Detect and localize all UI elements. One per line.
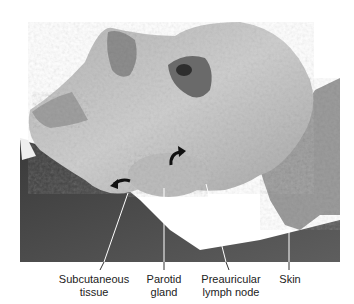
eye bbox=[176, 64, 192, 76]
label-subcutaneous-tissue: Subcutaneous tissue bbox=[58, 273, 130, 299]
label-line: Parotid bbox=[144, 273, 184, 286]
label-line: Preauricular bbox=[198, 273, 264, 286]
label-parotid-gland: Parotid gland bbox=[144, 273, 184, 299]
anatomy-photo bbox=[0, 0, 354, 304]
leader-subcutaneous-tail bbox=[100, 262, 104, 270]
label-line: Skin bbox=[276, 273, 304, 286]
parotid-gland-region bbox=[128, 153, 208, 197]
label-line: gland bbox=[144, 286, 184, 299]
label-preauricular-lymph-node: Preauricular lymph node bbox=[198, 273, 264, 299]
leader-preauricular-tail bbox=[226, 262, 229, 270]
label-line: lymph node bbox=[198, 286, 264, 299]
label-skin: Skin bbox=[276, 273, 304, 286]
label-line: tissue bbox=[58, 286, 130, 299]
label-line: Subcutaneous bbox=[58, 273, 130, 286]
